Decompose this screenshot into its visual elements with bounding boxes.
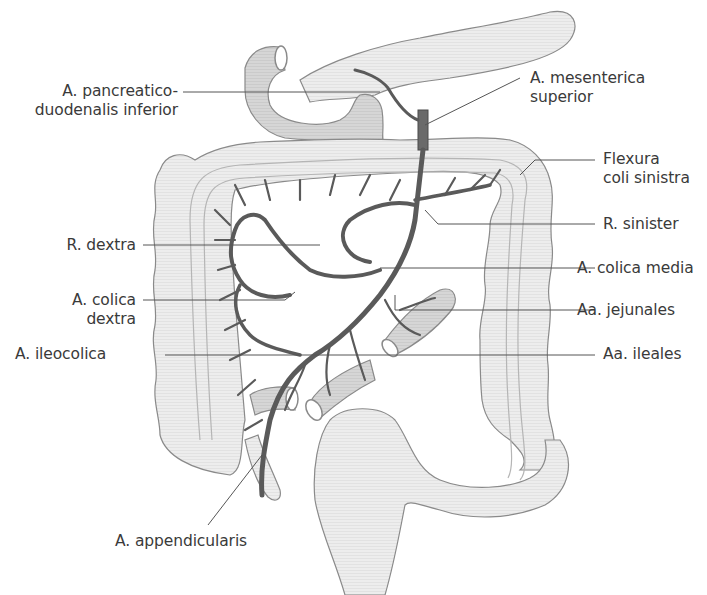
label-line: A. ileocolica	[15, 345, 106, 364]
label-colica-media: A. colica media	[577, 259, 694, 278]
label-line: duodenalis inferior	[0, 101, 178, 120]
label-line: coli sinistra	[603, 169, 690, 188]
label-r-sinister: R. sinister	[603, 215, 679, 234]
label-colica-dextra: A. colica dextra	[0, 291, 136, 329]
label-line: R. dextra	[0, 236, 136, 255]
small-bowel-segments	[250, 289, 455, 423]
label-line: A. pancreatico-	[0, 82, 178, 101]
label-line: Flexura	[603, 150, 690, 169]
label-line: superior	[530, 88, 645, 107]
label-flexura-coli-sinistra: Flexura coli sinistra	[603, 150, 690, 188]
label-ileales: Aa. ileales	[603, 345, 681, 364]
label-line: A. mesenterica	[530, 69, 645, 88]
label-line: A. colica	[0, 291, 136, 310]
label-line: Aa. jejunales	[577, 301, 675, 320]
label-appendicularis: A. appendicularis	[115, 532, 247, 551]
label-jejunales: Aa. jejunales	[577, 301, 675, 320]
label-pancreaticoduodenalis-inferior: A. pancreatico- duodenalis inferior	[0, 82, 178, 120]
label-line: dextra	[0, 310, 136, 329]
label-line: A. appendicularis	[115, 532, 247, 551]
label-line: Aa. ileales	[603, 345, 681, 364]
label-r-dextra: R. dextra	[0, 236, 136, 255]
label-line: A. colica media	[577, 259, 694, 278]
label-mesenterica-superior: A. mesenterica superior	[530, 69, 645, 107]
label-ileocolica: A. ileocolica	[15, 345, 106, 364]
label-line: R. sinister	[603, 215, 679, 234]
